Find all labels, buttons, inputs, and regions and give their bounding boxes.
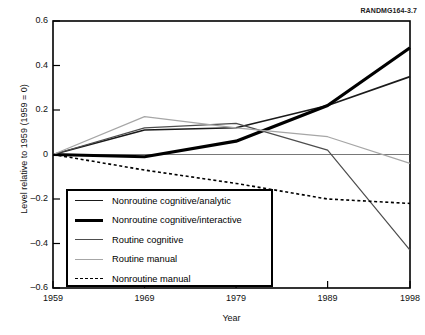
legend-label: Routine manual <box>104 254 177 264</box>
legend-item-2[interactable]: Routine cognitive <box>68 230 271 250</box>
legend-label: Nonroutine manual <box>104 274 191 284</box>
legend-item-4[interactable]: Nonroutine manual <box>68 269 271 289</box>
legend: Nonroutine cognitive/analyticNonroutine … <box>66 189 273 287</box>
legend-label: Routine cognitive <box>104 235 183 245</box>
chart-figure: RANDMG164-3.7 Level relative to 1959 (19… <box>0 0 425 335</box>
legend-item-3[interactable]: Routine manual <box>68 250 271 270</box>
legend-label: Nonroutine cognitive/analytic <box>104 196 231 206</box>
legend-swatch-icon <box>74 214 104 226</box>
legend-swatch-icon <box>74 253 104 265</box>
legend-swatch-icon <box>74 273 104 285</box>
legend-item-0[interactable]: Nonroutine cognitive/analytic <box>68 191 271 211</box>
legend-swatch-icon <box>74 195 104 207</box>
legend-item-1[interactable]: Nonroutine cognitive/interactive <box>68 211 271 231</box>
legend-swatch-icon <box>74 234 104 246</box>
legend-label: Nonroutine cognitive/interactive <box>104 215 242 225</box>
